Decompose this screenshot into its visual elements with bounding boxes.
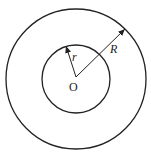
outer-radius-label: R <box>109 42 118 56</box>
inner-radius-label: r <box>72 50 77 64</box>
outer-radius-arrow <box>76 29 125 77</box>
concentric-circles-diagram: r R O <box>0 0 151 159</box>
center-label: O <box>69 80 78 94</box>
outer-circle <box>6 9 146 149</box>
